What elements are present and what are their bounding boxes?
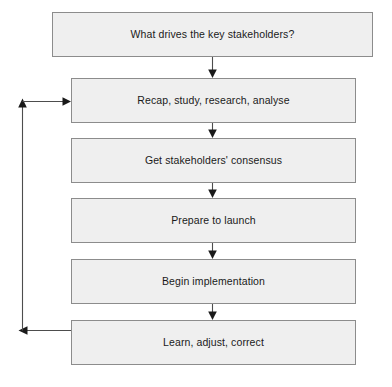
flow-node-recap-study-research-analyse[interactable]: Recap, study, research, analyse [71, 78, 356, 123]
flowchart-canvas: What drives the key stakeholders? Recap,… [0, 0, 392, 387]
edge-n1-n2 [208, 57, 217, 78]
edge-n2-n3 [208, 123, 217, 138]
flow-node-label: Prepare to launch [165, 214, 262, 227]
edge-n3-n4 [208, 183, 217, 198]
flow-node-begin-implementation[interactable]: Begin implementation [71, 259, 356, 304]
flow-node-label: Learn, adjust, correct [157, 336, 270, 349]
flow-node-what-drives-the-key-stakeholders[interactable]: What drives the key stakeholders? [52, 12, 373, 57]
flow-node-label: Begin implementation [156, 275, 271, 288]
edge-n4-n5 [208, 243, 217, 259]
flow-node-get-stakeholders-consensus[interactable]: Get stakeholders' consensus [71, 138, 356, 183]
flow-node-prepare-to-launch[interactable]: Prepare to launch [71, 198, 356, 243]
flow-node-label: Get stakeholders' consensus [139, 154, 288, 167]
edge-n5-n6 [208, 304, 217, 320]
flow-node-label: What drives the key stakeholders? [125, 28, 301, 41]
edge-n6-n2-feedback [18, 97, 71, 335]
flow-node-learn-adjust-correct[interactable]: Learn, adjust, correct [71, 320, 356, 365]
flow-node-label: Recap, study, research, analyse [131, 94, 295, 107]
